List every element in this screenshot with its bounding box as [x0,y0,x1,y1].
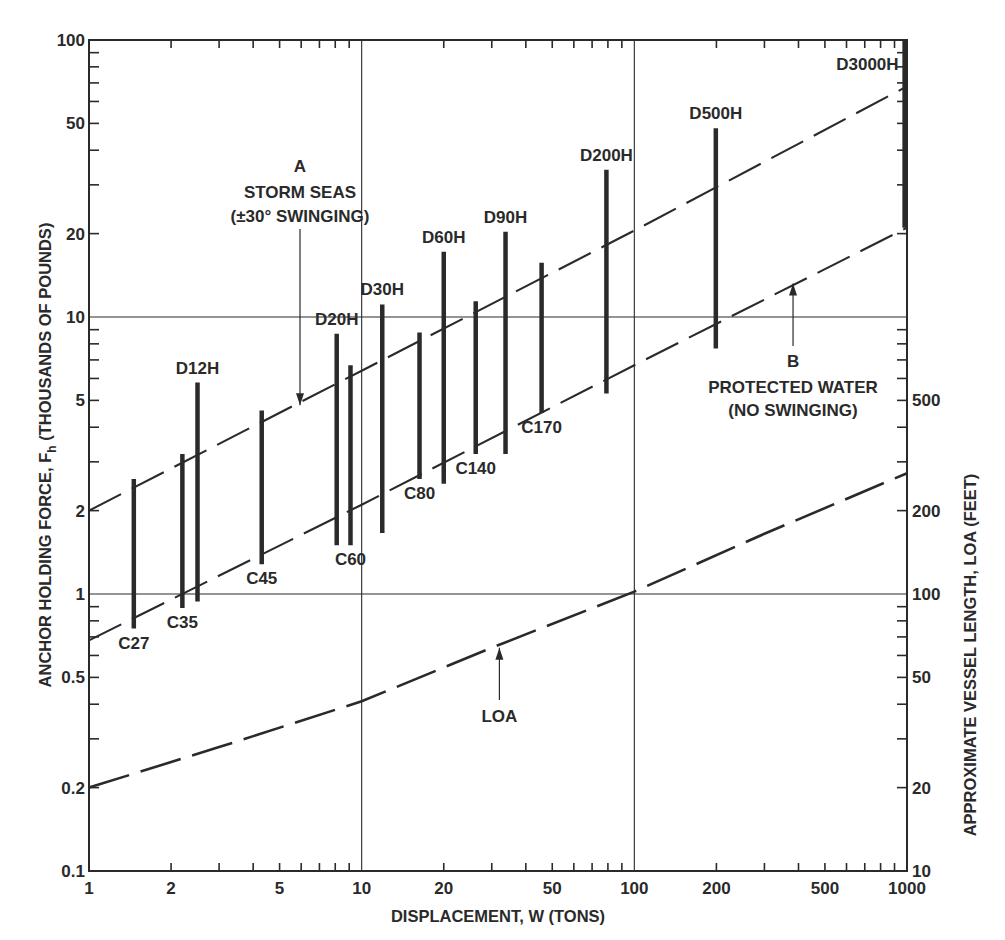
y-tick-label: 1 [76,585,85,604]
y2-axis-title: APPROXIMATE VESSEL LENGTH, LOA (FEET) [961,474,979,837]
anchor-label-c60: C60 [335,550,366,569]
y-tick-label: 50 [66,114,85,133]
anchor-range-bars: C27C35D12HC45D20HC60D30HC80D60HC140D90HC… [118,40,904,653]
y-tick-label: 2 [76,502,85,521]
anchor-label-d60h: D60H [422,228,465,247]
annotation-b-title: PROTECTED WATER [708,378,878,397]
y2-tick-label: 500 [912,391,940,410]
annotation-b-letter: B [787,352,799,371]
x-tick-label: 200 [702,879,730,898]
x-tick-label: 10 [352,879,371,898]
anchor-label-d500h: D500H [689,104,742,123]
annotation-b-subtitle: (NO SWINGING) [728,401,857,420]
annotation-a-subtitle: (±30° SWINGING) [231,207,370,226]
anchor-label-d3000h: D3000H [836,55,898,74]
annotation-loa-label: LOA [481,707,517,726]
anchor-label-c35: C35 [167,613,198,632]
x-tick-label: 1 [84,879,93,898]
axes [89,40,907,871]
y2-tick-label: 200 [912,502,940,521]
anchor-label-c27: C27 [118,634,149,653]
x-tick-label: 5 [275,879,284,898]
annotation-a-letter: A [294,157,306,176]
y2-tick-label: 10 [912,862,931,881]
y2-tick-label: 20 [912,779,931,798]
x-axis-title: DISPLACEMENT, W (TONS) [391,907,605,925]
x-tick-label: 100 [620,879,648,898]
x-tick-label: 1000 [888,879,926,898]
y-tick-label: 0.5 [61,668,85,687]
anchor-label-c80: C80 [404,484,435,503]
y-axis-title: ANCHOR HOLDING FORCE, Fh (THOUSANDS OF P… [36,223,59,688]
anchor-holding-force-chart: 12510205010020050010000.10.20.5125102050… [0,0,1005,940]
y2-tick-label: 100 [912,585,940,604]
y2-tick-label: 50 [912,668,931,687]
y-tick-label: 20 [66,225,85,244]
anchor-label-d12h: D12H [176,359,219,378]
plot-frame [89,40,907,871]
anchor-label-c45: C45 [246,569,277,588]
y-axis-title-subscript: h [45,445,59,452]
y-tick-label: 5 [76,391,85,410]
annotation-a-arrow-head [296,393,304,405]
anchor-label-d20h: D20H [315,310,358,329]
annotation-loa-arrow-head [495,648,503,660]
x-tick-label: 50 [543,879,562,898]
y-tick-label: 10 [66,308,85,327]
series-line-b [89,228,907,641]
annotation-a-title: STORM SEAS [244,183,356,202]
series-line-a [89,86,907,510]
x-tick-label: 2 [166,879,175,898]
annotations: ASTORM SEAS(±30° SWINGING)BPROTECTED WAT… [231,157,878,726]
y-axis-title-main: ANCHOR HOLDING FORCE, F [36,453,54,688]
data-series [89,86,907,787]
axis-ticks: 12510205010020050010000.10.20.5125102050… [57,31,941,898]
y-axis-title-tail: (THOUSANDS OF POUNDS) [36,223,54,446]
anchor-label-c170: C170 [521,418,562,437]
anchor-label-c140: C140 [455,459,496,478]
y-tick-label: 0.2 [61,779,85,798]
gridlines [89,40,907,871]
x-tick-label: 500 [811,879,839,898]
y-tick-label: 0.1 [61,862,85,881]
anchor-label-d200h: D200H [580,146,633,165]
anchor-label-d30h: D30H [361,280,404,299]
series-line-loa [89,473,907,787]
x-tick-label: 20 [434,879,453,898]
anchor-label-d90h: D90H [484,208,527,227]
y-tick-label: 100 [57,31,85,50]
